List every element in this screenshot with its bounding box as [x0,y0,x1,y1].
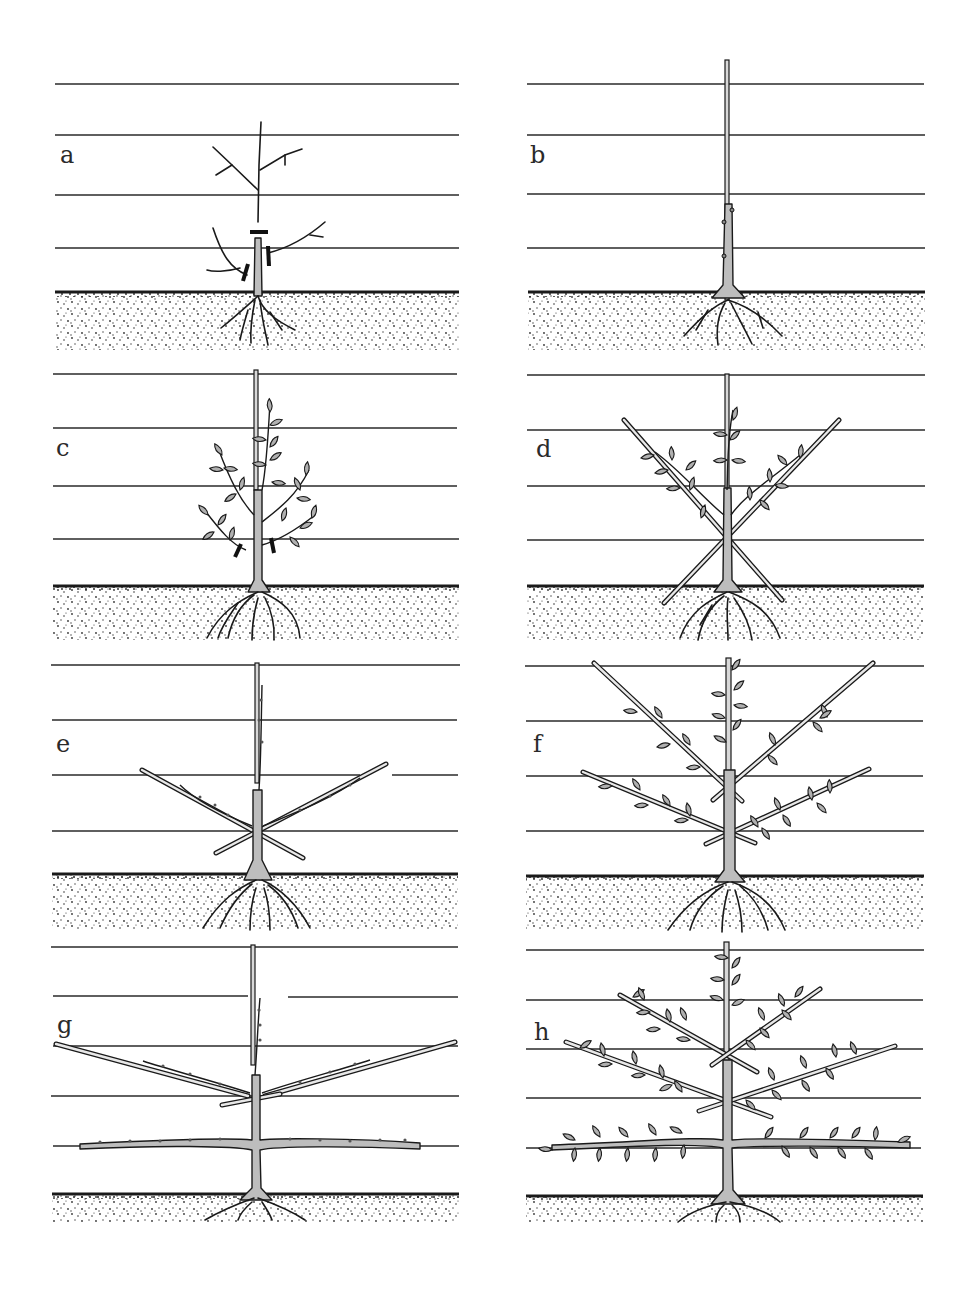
panel-h: h [526,942,924,1222]
panel-label: h [534,1018,549,1046]
panel-a: a [55,84,459,350]
cane [254,370,258,490]
panel-label: f [533,730,544,758]
support-wires [55,84,459,248]
cane [724,942,729,1067]
panel-label: d [536,435,551,463]
panel-e: e [51,663,460,930]
panel-label: e [56,730,70,758]
panel-label: g [57,1011,72,1039]
soil [53,586,459,640]
panel-c: c [53,370,459,640]
cane [726,658,731,788]
leaves [599,659,834,841]
espalier-training-diagram: a b [0,0,969,1291]
panel-label: c [56,434,69,462]
soil [55,292,459,350]
panel-g: g [51,945,459,1222]
panel-label: b [530,141,545,169]
cane [255,663,259,783]
tree [538,942,911,1222]
cane [251,945,255,1065]
cut-mark [268,246,269,266]
panel-d: d [527,374,925,640]
panel-f: f [525,658,924,932]
soil [52,874,458,930]
tree [56,945,455,1220]
panel-b: b [527,60,925,350]
cut-mark [243,264,248,281]
panel-label: a [60,141,74,169]
soil [527,586,924,640]
